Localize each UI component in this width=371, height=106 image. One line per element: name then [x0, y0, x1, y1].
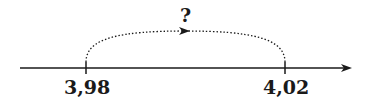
point-label-end: 4,02 [263, 78, 309, 97]
point-label-start: 3,98 [64, 78, 110, 97]
number-line-axis [20, 64, 352, 72]
question-mark-label: ? [180, 6, 191, 25]
dotted-jump-arc [86, 31, 285, 62]
jump-arrowhead-icon [179, 27, 190, 35]
